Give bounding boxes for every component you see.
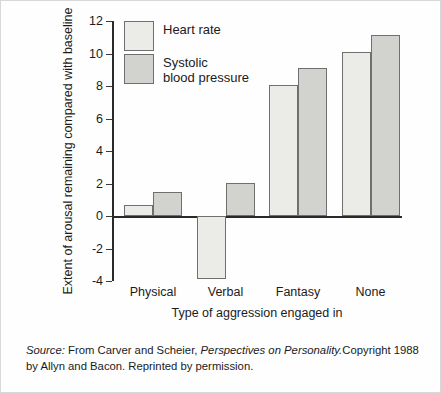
source-note: Source: From Carver and Scheier, Perspec…	[26, 342, 420, 374]
y-tick-mark	[106, 216, 112, 217]
figure-container: Extent of arousal remaining compared wit…	[0, 0, 441, 393]
legend-item-heart-rate: Heart rate	[124, 21, 274, 51]
y-tick-label: 8	[96, 79, 103, 93]
y-tick-mark	[106, 151, 112, 152]
bar-fantasy-systolic-blood-pressure	[298, 68, 327, 216]
y-tick-mark	[106, 184, 112, 185]
legend-label-systolic-blood-pressure: Systolic blood pressure	[163, 54, 249, 85]
y-tick-label: -4	[92, 274, 103, 288]
bar-physical-heart-rate	[124, 205, 153, 216]
source-text-before: From Carver and Scheier,	[65, 344, 201, 356]
y-tick-label: 0	[96, 209, 103, 223]
y-tick-mark	[106, 249, 112, 250]
x-tick-label-none: None	[356, 285, 386, 299]
y-tick-label: 6	[96, 112, 103, 126]
bar-none-systolic-blood-pressure	[371, 35, 400, 216]
source-publication-title: Perspectives on Personality.	[201, 344, 343, 356]
y-axis-title: Extent of arousal remaining compared wit…	[59, 21, 77, 281]
bar-verbal-systolic-blood-pressure	[226, 183, 255, 216]
y-tick-mark	[106, 86, 112, 87]
legend: Heart rate Systolic blood pressure	[124, 21, 274, 88]
source-label: Source:	[26, 344, 65, 356]
bar-verbal-heart-rate	[197, 216, 226, 279]
legend-swatch-systolic-blood-pressure	[124, 54, 154, 84]
y-tick-mark	[106, 119, 112, 120]
y-axis-title-label: Extent of arousal remaining compared wit…	[61, 8, 75, 295]
x-tick-label-verbal: Verbal	[208, 285, 243, 299]
legend-swatch-heart-rate	[124, 21, 154, 51]
y-tick-label: 10	[89, 47, 103, 61]
x-tick-label-fantasy: Fantasy	[276, 285, 320, 299]
legend-label-heart-rate-line1: Heart rate	[163, 22, 221, 37]
y-tick-label: 2	[96, 177, 103, 191]
y-tick-mark	[106, 54, 112, 55]
y-tick-mark	[106, 21, 112, 22]
zero-baseline	[112, 216, 402, 218]
y-tick-label: 12	[89, 14, 103, 28]
y-tick-label: -2	[92, 242, 103, 256]
bar-physical-systolic-blood-pressure	[153, 192, 182, 216]
bar-fantasy-heart-rate	[269, 85, 298, 216]
y-tick-mark	[106, 281, 112, 282]
legend-label-heart-rate: Heart rate	[163, 21, 221, 37]
legend-label-systolic-line2: blood pressure	[163, 70, 249, 85]
y-axis-line	[112, 21, 114, 281]
bar-none-heart-rate	[342, 52, 371, 216]
legend-label-systolic-line1: Systolic	[163, 55, 249, 70]
x-tick-label-physical: Physical	[130, 285, 177, 299]
legend-item-systolic-blood-pressure: Systolic blood pressure	[124, 54, 274, 85]
y-tick-label: 4	[96, 144, 103, 158]
x-axis-title: Type of aggression engaged in	[112, 306, 402, 320]
